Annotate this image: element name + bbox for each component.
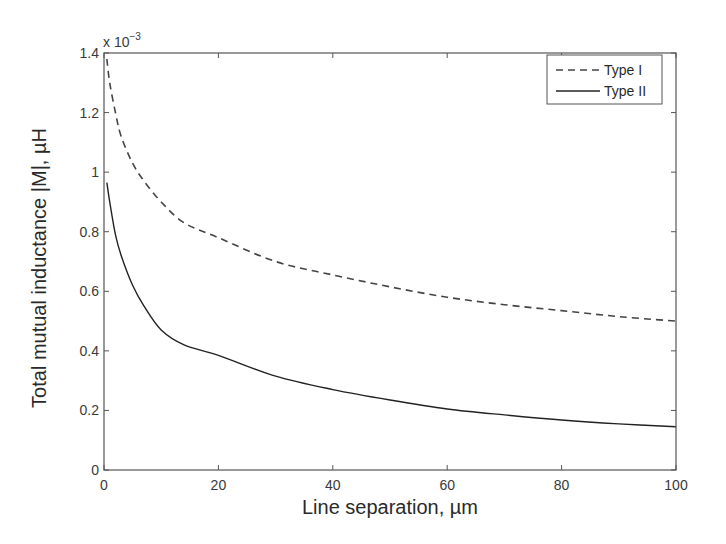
x-tick-label: 60 bbox=[439, 477, 455, 493]
x-axis-label: Line separation, µm bbox=[302, 496, 478, 518]
y-tick-label: 1.4 bbox=[80, 45, 100, 61]
y-tick-label: 0.6 bbox=[80, 283, 100, 299]
legend-label-type-ii: Type II bbox=[604, 83, 646, 99]
series-line-type-ii bbox=[107, 183, 676, 427]
axes-frame bbox=[104, 53, 676, 470]
x-tick-label: 100 bbox=[664, 477, 688, 493]
mutual-inductance-chart: 020406080100 00.20.40.60.811.21.4 x 10−3… bbox=[0, 0, 726, 544]
y-axis-label: Total mutual inductance |M|, µH bbox=[28, 128, 50, 408]
y-tick-label: 0.2 bbox=[80, 402, 100, 418]
y-tick-label: 0.8 bbox=[80, 224, 100, 240]
y-axis-multiplier: x 10−3 bbox=[103, 31, 141, 50]
x-tick-label: 80 bbox=[554, 477, 570, 493]
plot-frame bbox=[104, 53, 676, 470]
y-axis-ticks: 00.20.40.60.811.21.4 bbox=[80, 45, 676, 478]
x-tick-label: 0 bbox=[100, 477, 108, 493]
data-series bbox=[107, 59, 676, 427]
legend: Type I Type II bbox=[547, 55, 662, 104]
y-tick-label: 0 bbox=[91, 462, 99, 478]
y-tick-label: 1 bbox=[91, 164, 99, 180]
x-tick-label: 20 bbox=[211, 477, 227, 493]
x-axis-ticks: 020406080100 bbox=[100, 53, 688, 493]
x-tick-label: 40 bbox=[325, 477, 341, 493]
y-tick-label: 1.2 bbox=[80, 105, 100, 121]
legend-label-type-i: Type I bbox=[604, 62, 642, 78]
y-tick-label: 0.4 bbox=[80, 343, 100, 359]
